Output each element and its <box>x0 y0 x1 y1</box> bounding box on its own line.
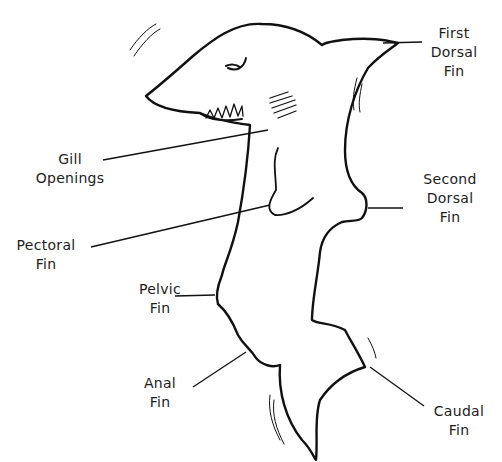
label-caudal-fin: Caudal Fin <box>424 402 494 440</box>
label-second-dorsal-fin: Second Dorsal Fin <box>410 170 490 227</box>
label-pelvic-fin: Pelvic Fin <box>130 280 190 318</box>
leader-gill <box>103 130 268 160</box>
gill-slits <box>270 92 296 118</box>
leader-anal <box>193 352 246 387</box>
label-first-dorsal-fin: First Dorsal Fin <box>414 24 494 81</box>
shark-teeth <box>206 104 243 118</box>
label-gill-openings: Gill Openings <box>30 150 110 188</box>
leader-pectoral <box>91 205 270 247</box>
label-anal-fin: Anal Fin <box>130 374 190 412</box>
shark-eye <box>226 58 246 70</box>
label-pectoral-fin: Pectoral Fin <box>6 236 86 274</box>
leader-caudal <box>370 367 424 406</box>
pectoral-fin-outline <box>269 148 313 215</box>
